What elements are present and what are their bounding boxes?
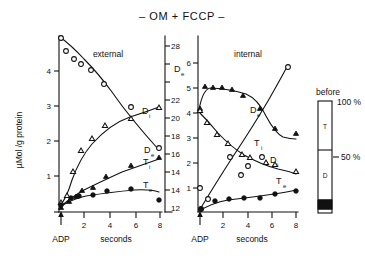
secondary-axis-De: 28 22 20 18 16 14 14 12 D e xyxy=(165,36,185,213)
right-y-tick-3: 3 xyxy=(187,134,192,143)
right-x-ticks: 2 4 6 8 xyxy=(221,212,299,230)
right-y-tick-2: 2 xyxy=(187,159,192,168)
right-x-tick-2: 2 xyxy=(221,221,226,230)
right-adp-arrow-icon xyxy=(197,211,203,225)
left-x-tick-6: 6 xyxy=(134,221,139,230)
before-bar: before T D 100 % 50 % xyxy=(316,87,362,213)
left-y-axis-label: µMol /g protein xyxy=(14,112,24,169)
right-panel: 1 2 3 4 5 6 2 4 6 8 ADP seconds internal xyxy=(187,36,299,244)
right-x-tick-8: 8 xyxy=(294,221,299,230)
left-label-Te: T e xyxy=(143,180,153,193)
svg-text:D: D xyxy=(270,155,277,165)
secondary-axis-label: D e xyxy=(174,64,185,77)
svg-text:i: i xyxy=(149,113,150,119)
left-y-ticks: 1 2 3 4 xyxy=(47,67,59,212)
before-bar-label-D: D xyxy=(323,172,328,179)
left-panel: 1 2 3 4 2 4 6 8 ADP seconds µMol /g prot… xyxy=(14,36,163,244)
right-x-tick-4: 4 xyxy=(246,221,251,230)
sec-tick-28: 28 xyxy=(171,42,180,51)
svg-text:i: i xyxy=(149,164,150,170)
svg-text:D: D xyxy=(174,64,181,74)
right-label-Te: T e xyxy=(276,176,287,189)
right-y-tick-4: 4 xyxy=(187,109,192,118)
right-origin-label: ADP xyxy=(191,234,209,244)
sec-tick-24: 22 xyxy=(171,96,180,105)
left-label-Di: D i xyxy=(142,106,150,119)
before-bar-label-50: 50 % xyxy=(341,152,361,162)
left-adp-arrow-icon xyxy=(58,211,64,225)
svg-text:T: T xyxy=(276,176,282,186)
left-label-Ti: T i xyxy=(143,157,150,170)
sec-tick-12: 12 xyxy=(171,204,180,213)
left-x-tick-2: 2 xyxy=(82,221,87,230)
sec-tick-16: 14 xyxy=(171,168,180,177)
left-y-tick-2: 2 xyxy=(47,137,52,146)
sec-tick-20: 18 xyxy=(171,132,180,141)
sec-tick-14: 14 xyxy=(171,186,180,195)
sec-tick-22: 20 xyxy=(171,114,180,123)
svg-text:D: D xyxy=(144,145,151,155)
left-x-tick-8: 8 xyxy=(158,221,163,230)
before-bar-label-100: 100 % xyxy=(337,97,362,107)
right-panel-title: internal xyxy=(234,49,262,59)
before-bar-outline xyxy=(318,101,332,213)
left-x-axis-label: seconds xyxy=(100,234,132,244)
before-bar-label-T: T xyxy=(323,123,327,130)
right-y-ticks: 1 2 3 4 5 6 xyxy=(187,59,198,193)
right-y-tick-1: 1 xyxy=(187,184,192,193)
svg-text:T: T xyxy=(254,138,260,148)
svg-text:i: i xyxy=(261,145,262,151)
left-y-tick-3: 3 xyxy=(47,102,52,111)
figure-title: – OM + FCCP – xyxy=(139,10,225,22)
svg-text:e: e xyxy=(181,71,185,77)
right-curve-Ti xyxy=(199,88,296,139)
sec-tick-18: 16 xyxy=(171,150,180,159)
right-points-Ti xyxy=(197,84,298,135)
before-bar-title: before xyxy=(316,87,340,97)
left-x-tick-4: 4 xyxy=(108,221,113,230)
left-panel-title: external xyxy=(93,49,123,59)
left-origin-label: ADP xyxy=(52,234,70,244)
right-x-tick-6: 6 xyxy=(270,221,275,230)
before-bar-segment-M xyxy=(318,200,332,209)
left-y-tick-4: 4 xyxy=(47,67,52,76)
svg-text:e: e xyxy=(151,152,155,158)
right-x-axis-label: seconds xyxy=(236,234,268,244)
svg-text:D: D xyxy=(142,106,149,116)
right-y-tick-6: 6 xyxy=(187,59,192,68)
figure-container: – OM + FCCP – 1 2 3 4 2 4 6 8 xyxy=(0,0,365,260)
right-y-tick-5: 5 xyxy=(187,84,192,93)
left-x-ticks: 2 4 6 8 xyxy=(82,212,163,230)
svg-text:i: i xyxy=(277,162,278,168)
svg-text:D: D xyxy=(250,105,257,115)
svg-text:e: e xyxy=(283,183,287,189)
left-y-tick-1: 1 xyxy=(47,172,52,181)
right-label-Ti: T i xyxy=(254,138,262,151)
